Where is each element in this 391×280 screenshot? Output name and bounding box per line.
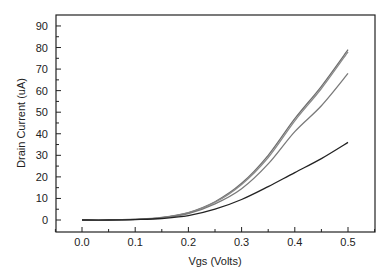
x-tick-label: 0.3	[234, 236, 249, 248]
drain-current-chart: 0102030405060708090 0.00.10.20.30.40.5 V…	[0, 0, 391, 280]
y-tick-label: 30	[36, 149, 48, 161]
x-axis-ticks: 0.00.10.20.30.40.5	[55, 227, 374, 248]
x-tick-label: 0.1	[128, 236, 143, 248]
y-tick-label: 80	[36, 42, 48, 54]
series-line-curve-1	[82, 50, 348, 220]
series-line-curve-4	[82, 142, 348, 220]
series-line-curve-2	[82, 52, 348, 220]
y-tick-label: 70	[36, 63, 48, 75]
plot-frame	[56, 15, 375, 232]
y-axis-ticks: 0102030405060708090	[36, 20, 61, 226]
series-line-curve-3	[82, 73, 348, 220]
x-tick-label: 0.0	[74, 236, 89, 248]
y-tick-label: 20	[36, 171, 48, 183]
y-tick-label: 0	[42, 214, 48, 226]
x-tick-label: 0.4	[287, 236, 302, 248]
y-tick-label: 50	[36, 106, 48, 118]
y-axis-label: Drain Current (uA)	[15, 78, 27, 168]
y-tick-label: 60	[36, 85, 48, 97]
y-tick-label: 10	[36, 192, 48, 204]
x-tick-label: 0.5	[340, 236, 355, 248]
x-axis-label: Vgs (Volts)	[188, 255, 241, 267]
y-tick-label: 40	[36, 128, 48, 140]
x-tick-label: 0.2	[181, 236, 196, 248]
data-series	[82, 50, 348, 220]
y-tick-label: 90	[36, 20, 48, 32]
